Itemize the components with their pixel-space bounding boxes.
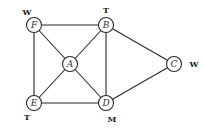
node-label: B [102,20,110,30]
graph-diagram: FWBTACWETDM [0,0,204,133]
node-E: ET [24,96,41,123]
color-label: T [103,5,109,15]
node-label: C [171,59,178,69]
edge-D-C [106,64,174,103]
node-B: BT [99,5,114,33]
nodes: FWBTACWETDM [22,5,200,124]
node-label: F [30,20,38,30]
node-D: DM [99,96,117,125]
color-label: M [108,114,117,124]
edge-B-C [106,25,174,64]
node-F: FW [22,7,42,33]
color-label: W [22,7,33,17]
edges [34,25,174,103]
node-label: A [66,59,74,69]
node-C: CW [167,57,200,72]
node-label: E [30,98,38,108]
node-A: A [63,57,78,72]
node-label: D [101,98,109,108]
color-label: W [189,59,200,69]
color-label: T [24,112,30,122]
